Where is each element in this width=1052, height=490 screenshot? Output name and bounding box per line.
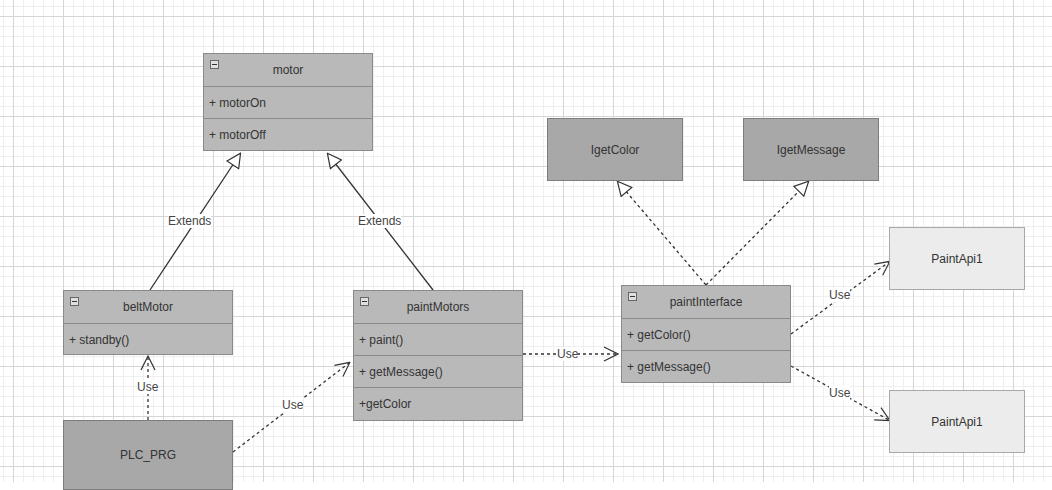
box-igetcolor[interactable]: IgetColor [547,118,683,181]
class-member[interactable]: + motorOn [204,87,372,119]
edge-label-extends: Extends [358,214,401,228]
edge-label-use: Use [829,288,850,302]
edge-label-use: Use [557,347,578,361]
collapse-icon[interactable] [210,60,219,69]
collapse-icon[interactable] [628,292,637,301]
class-beltmotor[interactable]: beltMotor + standby() [63,290,233,355]
class-name: motor [273,63,304,77]
class-member[interactable]: + paint() [354,324,522,356]
class-member[interactable]: + motorOff [204,119,372,151]
class-name: paintMotors [407,300,470,314]
box-label: PLC_PRG [120,448,176,462]
class-paintmotors[interactable]: paintMotors + paint() + getMessage() +ge… [353,290,523,421]
box-igetmessage[interactable]: IgetMessage [743,118,879,181]
box-paintapi-top[interactable]: PaintApi1 [889,227,1025,290]
collapse-icon[interactable] [360,297,369,306]
box-paintapi-bottom[interactable]: PaintApi1 [889,390,1025,453]
box-plc-prg[interactable]: PLC_PRG [63,420,233,490]
class-member[interactable]: + getMessage() [622,351,790,383]
box-label: IgetMessage [777,143,846,157]
class-header: beltMotor [64,291,232,324]
class-name: paintInterface [670,295,743,309]
class-member[interactable]: + standby() [64,324,232,356]
box-label: PaintApi1 [931,415,982,429]
collapse-icon[interactable] [70,297,79,306]
edge-label-use: Use [829,386,850,400]
class-paintinterface[interactable]: paintInterface + getColor() + getMessage… [621,285,791,383]
edge-label-use: Use [282,398,303,412]
edge-label-use: Use [137,380,158,394]
box-label: IgetColor [591,143,640,157]
class-header: paintMotors [354,291,522,324]
class-motor[interactable]: motor + motorOn + motorOff [203,53,373,151]
box-label: PaintApi1 [931,252,982,266]
realize-interface-to-igetmessage[interactable] [706,182,808,285]
realize-interface-to-igetcolor[interactable] [618,182,706,285]
class-member[interactable]: + getMessage() [354,356,522,388]
class-name: beltMotor [123,300,173,314]
edge-label-extends: Extends [168,214,211,228]
class-member[interactable]: + getColor() [622,319,790,351]
class-header: motor [204,54,372,87]
class-member[interactable]: +getColor [354,388,522,420]
class-header: paintInterface [622,286,790,319]
